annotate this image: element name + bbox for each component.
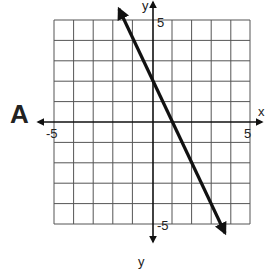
clipped-y-label: y — [138, 254, 145, 269]
panel-letter: A — [10, 99, 29, 130]
y-tick-5: 5 — [157, 15, 164, 30]
x-axis-label: x — [258, 104, 265, 119]
x-tick-neg5: -5 — [46, 126, 58, 141]
x-tick-5: 5 — [244, 126, 251, 141]
y-axis-label: y — [142, 0, 149, 13]
y-tick-neg5: -5 — [157, 218, 169, 233]
